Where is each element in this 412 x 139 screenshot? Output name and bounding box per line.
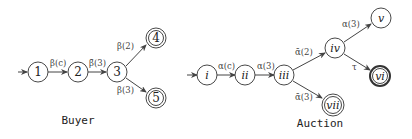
edge-label: β̄(3) [89,58,106,68]
state-3: 3 [107,62,127,82]
state-1: 1 [28,62,48,82]
edge-label: ᾱ(3) [295,92,313,102]
state-2: 2 [68,62,88,82]
svg-text:vi: vi [375,70,385,83]
state-5-final: 5 [146,88,166,108]
svg-text:2: 2 [74,65,82,79]
auction-automaton: α(c) α(3) ᾱ(2) ᾱ(3) α(3) τ i ii iii iv v [187,8,391,130]
state-iv: iv [325,38,345,58]
edge-label: β(3) [117,85,134,95]
svg-text:ii: ii [241,69,248,82]
svg-text:iii: iii [279,69,290,82]
edge-label: τ [352,62,357,72]
svg-text:4: 4 [152,31,160,45]
svg-text:i: i [205,69,209,82]
edge-label: α(c) [218,61,235,71]
state-iii: iii [274,65,294,85]
svg-text:3: 3 [113,65,121,79]
state-ii: ii [235,65,255,85]
svg-text:5: 5 [152,91,160,105]
edge-label: ᾱ(2) [295,47,313,57]
buyer-caption: Buyer [61,114,94,127]
state-vii-final: vii [322,94,344,116]
state-vi-final: vi [370,66,390,86]
edge-label: β(2) [117,41,134,51]
edge-iv-vi [344,54,370,70]
state-v: v [371,8,391,28]
edge-label: β(c) [50,58,66,68]
state-i: i [197,65,217,85]
edge-label: α(3) [257,61,275,71]
svg-text:v: v [378,12,385,25]
svg-text:vii: vii [326,99,339,112]
buyer-automaton: β(c) β̄(3) β(2) β(3) 1 2 3 4 5 Buyer [18,28,166,127]
diagram-canvas: β(c) β̄(3) β(2) β(3) 1 2 3 4 5 Buyer [0,0,412,139]
edge-label: α(3) [342,19,360,29]
state-4-final: 4 [146,28,166,48]
svg-text:iv: iv [330,42,341,55]
svg-text:1: 1 [34,65,42,79]
auction-caption: Auction [297,117,343,130]
